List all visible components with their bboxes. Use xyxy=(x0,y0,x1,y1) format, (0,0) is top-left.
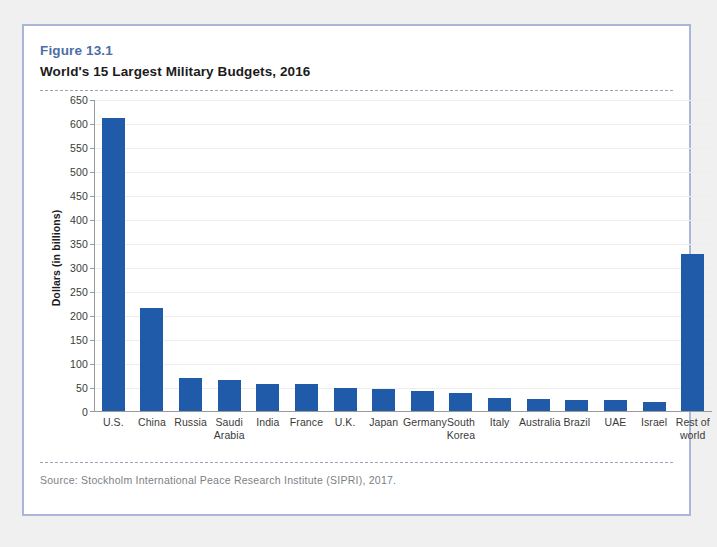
y-axis-tick-label: 0 xyxy=(82,406,88,418)
y-axis-tick-label: 250 xyxy=(70,286,88,298)
y-axis-tick-label: 450 xyxy=(70,190,88,202)
x-axis-tick-label: China xyxy=(133,416,172,429)
x-axis-tick-label: Saudi Arabia xyxy=(210,416,249,442)
bar-italy xyxy=(488,398,511,411)
y-axis-tick-label: 500 xyxy=(70,166,88,178)
y-axis-tick-mark xyxy=(90,196,94,197)
y-axis-tick-mark xyxy=(90,388,94,389)
bar-brazil xyxy=(565,400,588,411)
bar-saudi-arabia xyxy=(218,380,241,411)
y-axis-tick-mark xyxy=(90,172,94,173)
bar-germany xyxy=(411,391,434,411)
figure-card: Figure 13.1 World's 15 Largest Military … xyxy=(22,24,691,516)
bar-india xyxy=(256,384,279,411)
x-axis-tick-label: Brazil xyxy=(558,416,597,429)
y-axis-tick-mark xyxy=(90,148,94,149)
x-axis-tick-label: Germany xyxy=(403,416,442,429)
y-axis-tick-mark xyxy=(90,124,94,125)
y-axis-tick-labels: 050100150200250300350400450500550600650 xyxy=(52,100,88,412)
x-axis-tick-label: UAE xyxy=(596,416,635,429)
plot-area xyxy=(94,100,712,412)
x-axis-tick-label: Japan xyxy=(364,416,403,429)
x-axis-tick-label: Israel xyxy=(635,416,674,429)
y-axis-tick-label: 200 xyxy=(70,310,88,322)
y-axis-tick-label: 300 xyxy=(70,262,88,274)
bar-rest-of-world xyxy=(681,254,704,411)
figure-number: Figure 13.1 xyxy=(40,42,673,60)
bar-australia xyxy=(527,399,550,411)
figure-header: Figure 13.1 World's 15 Largest Military … xyxy=(40,42,673,81)
y-axis-tick-label: 350 xyxy=(70,238,88,250)
source-note: Source: Stockholm International Peace Re… xyxy=(40,474,396,486)
y-axis-tick-mark xyxy=(90,292,94,293)
bar-chart: Dollars (in billions) 050100150200250300… xyxy=(32,100,685,456)
y-axis-tick-mark xyxy=(90,220,94,221)
y-axis-tick-mark xyxy=(90,100,94,101)
y-axis-tick-mark xyxy=(90,340,94,341)
bars-layer xyxy=(94,100,712,412)
divider-top xyxy=(40,90,673,91)
x-axis-tick-label: India xyxy=(249,416,288,429)
y-axis-tick-label: 600 xyxy=(70,118,88,130)
y-axis-tick-mark xyxy=(90,316,94,317)
x-axis-tick-label: Italy xyxy=(480,416,519,429)
y-axis-tick-mark xyxy=(90,268,94,269)
y-axis-tick-label: 650 xyxy=(70,94,88,106)
bar-south-korea xyxy=(449,393,472,411)
figure-title: World's 15 Largest Military Budgets, 201… xyxy=(40,62,673,81)
y-axis-tick-label: 50 xyxy=(76,382,88,394)
y-axis-tick-label: 400 xyxy=(70,214,88,226)
x-axis-tick-label: Russia xyxy=(171,416,210,429)
x-axis-tick-label: South Korea xyxy=(442,416,481,442)
x-axis-tick-label: Rest of world xyxy=(673,416,712,442)
x-axis-tick-labels: U.S.ChinaRussiaSaudi ArabiaIndiaFranceU.… xyxy=(94,416,712,456)
bar-france xyxy=(295,384,318,411)
bar-u-s xyxy=(102,118,125,411)
x-axis-tick-label: Australia xyxy=(519,416,558,429)
divider-bottom xyxy=(40,462,673,463)
y-axis-tick-mark xyxy=(90,411,94,412)
bar-u-k xyxy=(334,388,357,411)
y-axis-tick-label: 150 xyxy=(70,334,88,346)
x-axis-tick-label: U.S. xyxy=(94,416,133,429)
bar-japan xyxy=(372,389,395,411)
x-axis-tick-label: U.K. xyxy=(326,416,365,429)
y-axis-tick-label: 550 xyxy=(70,142,88,154)
y-axis-tick-mark xyxy=(90,244,94,245)
y-axis-tick-mark xyxy=(90,364,94,365)
y-axis-tick-label: 100 xyxy=(70,358,88,370)
x-axis-tick-label: France xyxy=(287,416,326,429)
bar-china xyxy=(140,308,163,411)
bar-uae xyxy=(604,400,627,411)
bar-russia xyxy=(179,378,202,411)
bar-israel xyxy=(643,402,666,411)
